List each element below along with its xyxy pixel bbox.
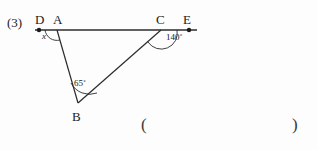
problem-number: (3) bbox=[7, 16, 22, 29]
vertex-label-B: B bbox=[72, 110, 81, 123]
segment-BC bbox=[78, 30, 161, 103]
vertex-label-D: D bbox=[35, 13, 44, 26]
angle-label-x: x bbox=[42, 32, 46, 41]
angle-label-65: 65˚ bbox=[74, 79, 86, 88]
vertex-label-E: E bbox=[183, 13, 191, 26]
point-dot-E bbox=[187, 28, 191, 32]
point-dot-D bbox=[37, 28, 41, 32]
angle-label-140: 140˚ bbox=[166, 33, 183, 42]
answer-open-paren: ( bbox=[141, 116, 147, 133]
answer-close-paren: ) bbox=[292, 116, 298, 133]
vertex-label-A: A bbox=[53, 13, 62, 26]
segment-AB bbox=[57, 30, 78, 103]
worksheet-page: (3) D A C E B x 65˚ 140˚ ( ) bbox=[0, 0, 318, 150]
vertex-label-C: C bbox=[156, 13, 165, 26]
